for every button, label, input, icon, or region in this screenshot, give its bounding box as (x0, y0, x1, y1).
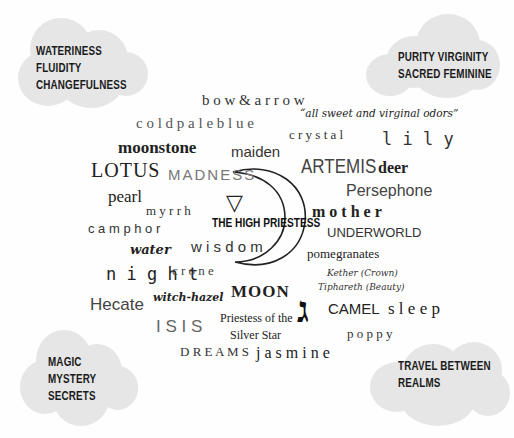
card-title: THE HIGH PRIESTESS (212, 216, 320, 229)
cloud-magic: MAGIC MYSTERY SECRETS (18, 330, 136, 430)
cloud-text-1: WATERINESS (36, 43, 127, 60)
word-hecate: Hecate (90, 296, 144, 313)
cloud-text-2: REALMS (398, 375, 491, 392)
word-dreams: D R E A M S (180, 345, 249, 358)
word-pearl: pearl (108, 188, 142, 205)
word-isis: I S I S (156, 318, 202, 335)
word-witch-hazel: witch-hazel (153, 292, 224, 303)
cloud-text-2: MYSTERY (48, 371, 96, 388)
word-bow-arrow: b o w & a r r o w (202, 93, 304, 108)
cloud-text-2: FLUIDITY (36, 60, 127, 77)
word-crone: c r o n e (172, 264, 214, 277)
word-moon: MOON (231, 283, 290, 300)
word-water: water (130, 243, 171, 256)
word-wisdom: w i s d o m (191, 239, 263, 254)
word-lily: l i l y (382, 131, 454, 148)
word-cold-pale-blue: c o l d p a l e b l u e (136, 116, 254, 131)
word-priestess-silver-1: Priestess of the (220, 312, 293, 324)
cloud-text-1: PURITY VIRGINITY (398, 49, 492, 66)
hebrew-letter-gimel: ג (297, 292, 309, 328)
cloud-purity: PURITY VIRGINITY SACRED FEMININE (362, 14, 510, 98)
word-tiphareth: Tiphareth (Beauty) (318, 283, 405, 292)
element-symbol-icon: ▽ (226, 192, 243, 214)
word-odors: “all sweet and virginal odors” (300, 108, 458, 119)
word-deer: deer (378, 160, 408, 176)
word-myrrh: m y r r h (146, 204, 191, 217)
word-kether: Kether (Crown) (327, 269, 398, 278)
word-camel: CAMEL (328, 301, 380, 316)
cloud-text-1: TRAVEL BETWEEN (398, 358, 491, 375)
cloud-text-3: CHANGEFULNESS (36, 77, 127, 94)
word-sleep: s l e e p (388, 300, 440, 317)
word-priestess-silver-2: Silver Star (230, 329, 281, 341)
word-mother: m o t h e r (312, 204, 382, 220)
word-maiden: maiden (231, 144, 280, 159)
cloud-wateriness: WATERINESS FLUIDITY CHANGEFULNESS (8, 10, 148, 110)
word-camphor: c a m p h o r (88, 222, 160, 235)
cloud-travel: TRAVEL BETWEEN REALMS (370, 342, 512, 426)
word-pomegranates: pomegranates (307, 247, 379, 260)
cloud-text-3: SECRETS (48, 388, 96, 405)
word-underworld: UNDERWORLD (327, 226, 421, 239)
word-persephone: Persephone (346, 183, 432, 199)
cloud-text-1: MAGIC (48, 354, 96, 371)
word-jasmine: j a s m i n e (256, 345, 330, 361)
word-moonstone: moonstone (118, 139, 196, 156)
word-crystal: c r y s t a l (289, 128, 343, 141)
cloud-text-2: SACRED FEMININE (398, 66, 492, 83)
word-poppy: p o p p y (347, 327, 393, 340)
word-madness: MADNESS (168, 167, 256, 182)
word-lotus: LOTUS (91, 160, 160, 180)
word-artemis: ARTEMIS (301, 156, 376, 176)
